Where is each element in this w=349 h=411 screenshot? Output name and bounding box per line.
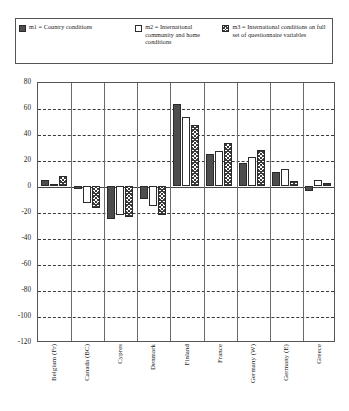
y-axis-tick-label: 60: [24, 104, 31, 112]
x-axis-tick-label: Germany (E): [282, 344, 289, 381]
x-axis-tick-label: Canada (BC): [83, 344, 90, 381]
bar: [239, 163, 247, 186]
y-axis-tick-label: -120: [18, 338, 31, 346]
y-axis-tick-label: -60: [21, 260, 31, 268]
bar: [305, 186, 313, 191]
legend-label-m3: m3 = International conditions on full se…: [232, 23, 329, 38]
bar: [59, 176, 67, 186]
legend-swatch-crosshatch-icon: [222, 25, 229, 32]
bar: [182, 117, 190, 186]
x-axis-tick-label: Cypres: [116, 344, 123, 364]
bar: [158, 186, 166, 215]
bar-group: [269, 82, 302, 342]
y-axis-tick-label: -100: [18, 312, 31, 320]
x-axis-tick-label: Greece: [315, 344, 322, 364]
bar: [116, 186, 124, 215]
y-axis: 806040200-20-40-60-80-100-120: [0, 82, 34, 342]
bar-group: [236, 82, 269, 342]
legend-swatch-white-icon: [135, 25, 142, 32]
x-axis-tick-label: Germany (W): [249, 344, 256, 383]
legend-item-m1: m1 = Country conditions: [19, 23, 135, 32]
x-axis-tick-label: Finland: [183, 344, 190, 365]
bar: [224, 143, 232, 186]
x-axis-tick-label: France: [216, 344, 223, 363]
bar: [92, 186, 100, 208]
bar: [290, 181, 298, 186]
bar: [323, 183, 331, 186]
bar: [173, 104, 181, 186]
bar-groups: [37, 82, 335, 342]
legend-label-m1: m1 = Country conditions: [29, 23, 92, 31]
x-axis-labels: Belgium (Fr)Canada (BC)CypresDenmarkFinl…: [37, 344, 335, 410]
bar: [83, 186, 91, 203]
bar-group: [169, 82, 202, 342]
y-axis-tick-label: 40: [24, 130, 31, 138]
y-axis-tick-label: -20: [21, 208, 31, 216]
bar: [191, 125, 199, 186]
bar: [74, 186, 82, 189]
legend-swatch-solid-dark-icon: [19, 25, 26, 32]
bar: [281, 169, 289, 186]
bar-group: [103, 82, 136, 342]
bar-group: [136, 82, 169, 342]
bar: [140, 186, 148, 199]
bar: [272, 172, 280, 186]
x-axis-tick-label: Denmark: [149, 344, 156, 370]
y-axis-tick-label: 0: [27, 182, 31, 190]
legend: m1 = Country conditions m2 = Internation…: [15, 18, 333, 64]
y-axis-tick-label: -40: [21, 234, 31, 242]
bar: [41, 180, 49, 187]
bar: [107, 186, 115, 219]
bar: [248, 157, 256, 186]
bar-group: [302, 82, 335, 342]
bar: [149, 186, 157, 206]
y-axis-tick-label: 80: [24, 78, 31, 86]
x-axis-tick-label: Belgium (Fr): [50, 344, 57, 381]
bar: [257, 150, 265, 186]
bar: [206, 154, 214, 187]
bar: [125, 186, 133, 217]
legend-label-m2: m2 = International community and home co…: [145, 23, 222, 46]
bar-group: [37, 82, 70, 342]
y-axis-tick-label: -80: [21, 286, 31, 294]
bar-group: [203, 82, 236, 342]
y-axis-tick-label: 20: [24, 156, 31, 164]
bar: [215, 151, 223, 186]
legend-item-m2: m2 = International community and home co…: [135, 23, 222, 46]
bar: [314, 180, 322, 187]
legend-item-m3: m3 = International conditions on full se…: [222, 23, 329, 38]
bar: [50, 184, 58, 187]
bar-group: [70, 82, 103, 342]
